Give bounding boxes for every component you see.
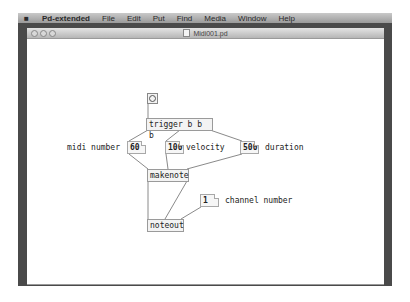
bang-button[interactable] [147,93,158,104]
comment-midi-number: midi number [67,142,120,153]
comment-duration: duration [265,142,304,153]
bang-circle-icon [149,95,156,102]
patch-canvas[interactable]: trigger b b b midi number 60 100 velocit… [0,0,410,302]
makenote-object[interactable]: makenote [147,169,189,182]
number-box-channel[interactable]: 1 [200,194,219,207]
number-box-velocity[interactable]: 100 [165,141,184,154]
noteout-object[interactable]: noteout [147,219,184,232]
number-box-midi[interactable]: 60 [127,141,146,154]
comment-velocity: velocity [186,142,225,153]
comment-channel-number: channel number [225,195,292,206]
trigger-object[interactable]: trigger b b b [146,118,213,131]
number-box-duration[interactable]: 500 [240,141,259,154]
